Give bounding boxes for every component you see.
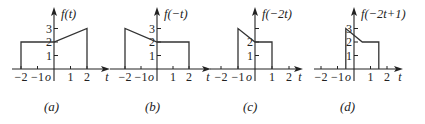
origin-label: o bbox=[45, 70, 51, 84]
y-tick-label: 1 bbox=[46, 49, 52, 63]
x-axis-label: t bbox=[105, 70, 109, 84]
y-tick-label: 3 bbox=[46, 22, 52, 36]
panel-caption: (a) bbox=[44, 99, 59, 114]
origin-label: o bbox=[246, 70, 252, 84]
x-tick-label: −2 bbox=[215, 70, 228, 84]
origin-label: o bbox=[345, 70, 351, 84]
x-tick-label: 1 bbox=[170, 70, 176, 84]
x-tick-label: 2 bbox=[186, 70, 192, 84]
x-axis-label: t bbox=[206, 70, 210, 84]
panel-title: f(t) bbox=[61, 7, 76, 21]
x-axis-label: t bbox=[398, 70, 402, 84]
x-tick-label: −2 bbox=[315, 70, 328, 84]
panel-title: f(−2t+1) bbox=[361, 7, 406, 21]
x-axis-label: t bbox=[298, 70, 302, 84]
x-tick-label: −1 bbox=[31, 70, 44, 84]
signal-transform-figure: −2−112ot123f(t)(a) −2−112ot123f(−t)(b) −… bbox=[0, 0, 425, 124]
x-tick-label: −1 bbox=[135, 70, 148, 84]
x-tick-label: −1 bbox=[232, 70, 245, 84]
x-tick-label: 2 bbox=[286, 70, 292, 84]
panel-caption: (c) bbox=[243, 99, 257, 114]
y-tick-label: 1 bbox=[247, 49, 253, 63]
panel-title: f(−t) bbox=[164, 7, 188, 21]
x-tick-label: 2 bbox=[384, 70, 390, 84]
origin-label: o bbox=[148, 70, 154, 84]
panel-d: −2−112ot123f(−2t+1)(d) bbox=[314, 7, 406, 114]
x-tick-label: −1 bbox=[331, 70, 344, 84]
panel-caption: (d) bbox=[340, 99, 355, 114]
panel-a: −2−112ot123f(t)(a) bbox=[12, 7, 110, 114]
panel-caption: (b) bbox=[145, 99, 160, 114]
y-tick-label: 2 bbox=[346, 35, 352, 49]
x-tick-label: 1 bbox=[269, 70, 275, 84]
x-tick-label: 1 bbox=[68, 70, 74, 84]
x-tick-label: 2 bbox=[84, 70, 90, 84]
x-tick-label: 1 bbox=[368, 70, 374, 84]
x-tick-label: −2 bbox=[15, 70, 28, 84]
panel-title: f(−2t) bbox=[262, 7, 292, 21]
panel-c: −2−112ot12f(−2t)(c) bbox=[210, 7, 303, 114]
y-tick-label: 3 bbox=[149, 22, 155, 36]
y-tick-label: 2 bbox=[149, 35, 155, 49]
x-tick-label: −2 bbox=[119, 70, 132, 84]
panel-b: −2−112ot123f(−t)(b) bbox=[110, 7, 211, 114]
y-tick-label: 1 bbox=[346, 49, 352, 63]
y-tick-label: 1 bbox=[149, 49, 155, 63]
